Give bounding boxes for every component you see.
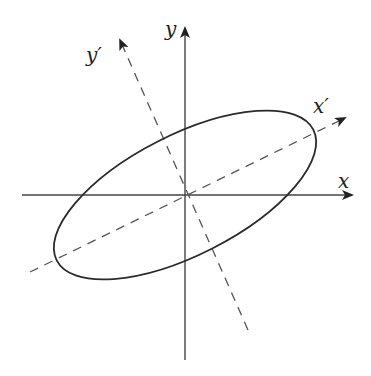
y-axis-label: y <box>164 17 177 41</box>
ellipse-axes-diagram: x y x′ y′ <box>0 0 371 376</box>
y-prime-axis-label: y′ <box>85 43 102 67</box>
x-prime-axis-label: x′ <box>313 94 329 118</box>
diagram-canvas: x y x′ y′ <box>0 0 371 376</box>
x-axis-label: x <box>338 169 349 193</box>
y-prime-axis <box>120 40 248 330</box>
